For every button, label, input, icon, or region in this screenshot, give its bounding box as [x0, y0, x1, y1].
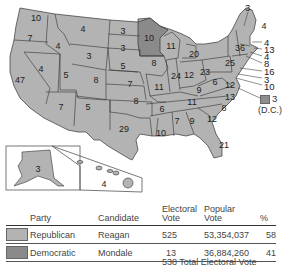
ev-label-la: 10 [156, 128, 166, 138]
header-percent: % [260, 205, 276, 226]
ev-label-tn: 11 [187, 97, 196, 107]
party-cell: Republican [30, 226, 98, 244]
percent-cell: 58 [260, 226, 276, 244]
ev-label-ut: 5 [63, 70, 68, 80]
ev-label-ok: 8 [133, 96, 138, 106]
ev-label-ks: 7 [127, 79, 132, 89]
democratic-swatch [6, 246, 28, 259]
ev-label-fl: 21 [219, 140, 229, 150]
republican-swatch [6, 228, 28, 241]
dc-swatch [260, 95, 270, 104]
header-party: Party [30, 205, 98, 226]
header-candidate: Candidate [98, 205, 162, 226]
ev-label-sc: 8 [221, 103, 226, 113]
popular-cell: 53,354,037 [204, 226, 260, 244]
ev-label-ne: 5 [120, 61, 125, 71]
ev-label-mi: 20 [189, 49, 199, 59]
ev-label-ny: 36 [235, 43, 245, 53]
candidate-cell: Mondale [98, 244, 162, 262]
ev-label-md: 10 [264, 81, 275, 92]
ev-label-ar: 6 [159, 104, 164, 114]
ev-label-nm: 5 [85, 102, 90, 112]
header-popular-vote: PopularVote [204, 205, 260, 226]
ev-label-ak: 3 [35, 164, 40, 174]
table-row-republican: Republican Reagan 525 53,354,037 58 [6, 226, 276, 244]
ev-label-in: 12 [184, 70, 194, 80]
ev-label-me: 4 [261, 21, 266, 31]
percent-cell: 41 [260, 244, 276, 262]
ev-label-co: 8 [93, 75, 98, 85]
ev-label-ga: 12 [207, 114, 217, 124]
header-electoral-vote: ElectoralVote [162, 205, 204, 226]
table-header-row: Party Candidate ElectoralVote PopularVot… [6, 205, 276, 226]
electoral-cell: 525 [162, 226, 204, 244]
ev-label-hi: 4 [101, 179, 106, 189]
ev-label-wa: 10 [31, 13, 41, 23]
candidate-cell: Reagan [98, 226, 162, 244]
ev-label-il: 24 [171, 71, 181, 81]
ev-label-al: 9 [189, 116, 194, 126]
ev-label-mn: 10 [144, 33, 154, 43]
ev-label-ca: 47 [15, 75, 25, 85]
ev-label-ky: 9 [196, 85, 201, 95]
ev-label-va: 12 [225, 80, 235, 90]
ev-label-pa: 25 [225, 58, 235, 68]
ev-label-ms: 7 [174, 116, 179, 126]
party-cell: Democratic [30, 244, 98, 262]
dc-label: (D.C.) [258, 105, 282, 115]
us-electoral-map [0, 0, 282, 200]
ev-label-wi: 11 [166, 41, 175, 51]
results-table: Party Candidate ElectoralVote PopularVot… [6, 205, 276, 262]
ev-label-nc: 13 [225, 92, 235, 102]
ev-label-vt: 3 [245, 2, 250, 13]
ev-label-tx: 29 [119, 124, 129, 134]
ev-label-mo: 11 [154, 82, 163, 92]
ev-label-wy: 3 [86, 51, 91, 61]
ev-label-or: 7 [27, 33, 32, 43]
ev-label-nv: 4 [38, 64, 43, 74]
ev-label-wv: 6 [212, 77, 217, 87]
ev-label-oh: 23 [200, 67, 210, 77]
ev-label-id: 4 [55, 41, 60, 51]
ev-label-dc: 3 [272, 93, 277, 104]
ev-label-sd: 3 [120, 43, 125, 53]
ev-label-mt: 4 [80, 24, 85, 34]
ev-label-ia: 8 [151, 58, 156, 68]
ev-label-nd: 3 [120, 26, 125, 36]
total-electoral-vote: 538 Total Electoral Vote [162, 257, 256, 267]
ev-label-az: 7 [58, 102, 63, 112]
